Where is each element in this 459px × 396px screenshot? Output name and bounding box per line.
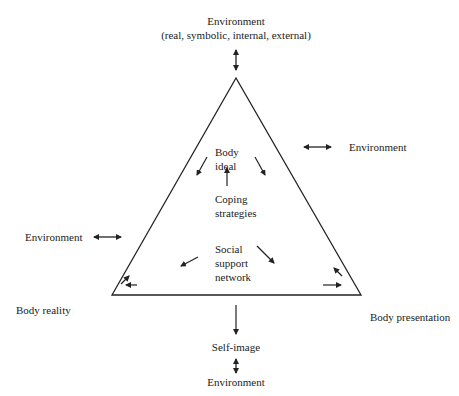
diagram-canvas: Environment (real, symbolic, internal, e… (0, 0, 459, 396)
social-line2: support (215, 256, 251, 270)
top-environment-label: Environment (real, symbolic, internal, e… (136, 14, 336, 42)
arrow-ideal-to-left (197, 157, 207, 175)
body-ideal-line1: Body (215, 145, 239, 159)
social-support-network-label: Social support network (215, 242, 251, 284)
social-line1: Social (215, 242, 251, 256)
arrow-ideal-to-right (255, 157, 265, 175)
arrow-social-to-left (181, 257, 198, 266)
body-ideal-label: Body ideal (215, 145, 239, 173)
coping-line1: Coping (215, 192, 257, 206)
arrow-right-corner-up (334, 268, 342, 276)
social-line3: network (215, 270, 251, 284)
bottom-environment-label: Environment (186, 375, 286, 389)
coping-line2: strategies (215, 206, 257, 220)
left-environment-label: Environment (25, 230, 82, 244)
coping-strategies-label: Coping strategies (215, 192, 257, 220)
right-environment-label: Environment (349, 140, 406, 154)
arrow-social-to-right (257, 246, 274, 263)
top-environment-subtitle: (real, symbolic, internal, external) (136, 28, 336, 42)
body-reality-label: Body reality (16, 303, 71, 317)
body-presentation-label: Body presentation (370, 310, 450, 324)
top-environment-title: Environment (136, 14, 336, 28)
self-image-label: Self-image (186, 340, 286, 354)
body-ideal-line2: ideal (215, 159, 239, 173)
